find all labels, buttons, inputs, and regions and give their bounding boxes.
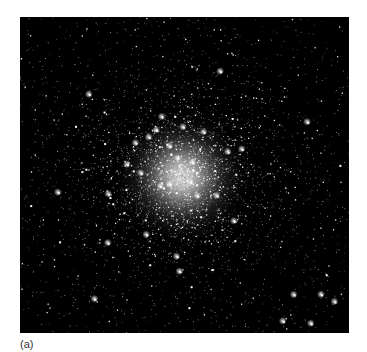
star-cluster-photo [20,17,349,333]
star-field-image [20,17,349,333]
figure-caption-label: (a) [20,338,33,350]
